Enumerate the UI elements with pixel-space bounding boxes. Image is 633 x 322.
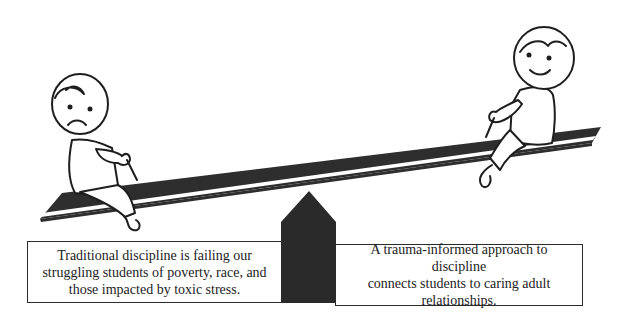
- caption-trauma-informed: A trauma-informed approach to discipline…: [335, 244, 583, 306]
- caption-right-line-1: A trauma-informed approach to discipline: [342, 241, 576, 275]
- caption-right-line-2: connects students to caring adult: [342, 275, 576, 292]
- caption-right-line-3: relationships.: [342, 292, 576, 309]
- happy-child-figure: [480, 27, 574, 187]
- fulcrum: [281, 191, 336, 303]
- caption-left-line-3: those impacted by toxic stress.: [42, 281, 266, 298]
- caption-traditional-discipline: Traditional discipline is failing our st…: [27, 241, 282, 303]
- caption-left-line-2: struggling students of poverty, race, an…: [42, 264, 266, 281]
- caption-left-line-1: Traditional discipline is failing our: [42, 247, 266, 264]
